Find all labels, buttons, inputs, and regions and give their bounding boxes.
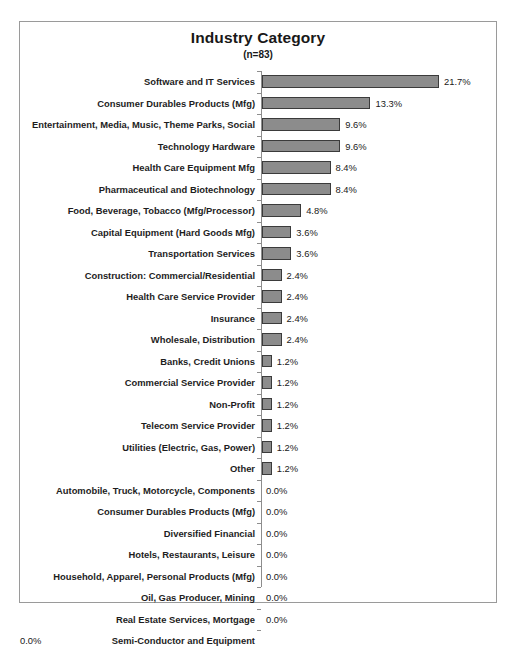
axis-tick (257, 501, 261, 502)
category-label: Utilities (Electric, Gas, Power) (122, 437, 255, 459)
axis-tick (257, 523, 261, 524)
bar-value-label: 2.4% (287, 308, 308, 330)
axis-tick (257, 458, 261, 459)
axis-tick (257, 544, 261, 545)
category-label: Food, Beverage, Tobacco (Mfg/Processor) (68, 200, 255, 222)
bar-value-label: 0.0% (266, 609, 287, 631)
axis-tick (257, 136, 261, 137)
bar-value-label: 8.4% (336, 179, 357, 201)
bar-value-label: 0.0% (20, 630, 41, 650)
category-label: Wholesale, Distribution (151, 329, 255, 351)
category-label: Real Estate Services, Mortgage (116, 609, 255, 631)
bar-value-label: 0.0% (266, 523, 287, 545)
bar-value-label: 2.4% (287, 265, 308, 287)
axis-tick (257, 329, 261, 330)
bar-value-label: 1.2% (277, 415, 298, 437)
axis-tick (257, 587, 261, 588)
chart-frame: Industry Category (n=83) Software and IT… (19, 21, 497, 603)
axis-tick (257, 566, 261, 567)
bar-value-label: 4.8% (306, 200, 327, 222)
bar-value-label: 0.0% (266, 587, 287, 609)
bar-row: Food, Beverage, Tobacco (Mfg/Processor)4… (20, 200, 498, 222)
bar (262, 462, 272, 475)
bar-row: Technology Hardware9.6% (20, 136, 498, 158)
bar (262, 355, 272, 368)
axis-tick (257, 630, 261, 631)
category-label: Health Care Service Provider (126, 286, 255, 308)
category-label: Pharmaceutical and Biotechnology (99, 179, 255, 201)
bar (262, 97, 370, 110)
category-label: Hotels, Restaurants, Leisure (128, 544, 255, 566)
bar-value-label: 9.6% (345, 136, 366, 158)
category-label: Entertainment, Media, Music, Theme Parks… (32, 114, 255, 136)
category-label: Commercial Service Provider (125, 372, 255, 394)
bar-row: Wholesale, Distribution2.4% (20, 329, 498, 351)
category-label: Other (230, 458, 255, 480)
axis-tick (257, 93, 261, 94)
bar (262, 75, 439, 88)
bar-value-label: 3.6% (296, 243, 317, 265)
axis-tick (257, 394, 261, 395)
axis-tick (257, 286, 261, 287)
bar-row: Non-Profit1.2% (20, 394, 498, 416)
bar-row: Utilities (Electric, Gas, Power)1.2% (20, 437, 498, 459)
bar-row: Consumer Durables Products (Mfg)0.0% (20, 501, 498, 523)
axis-tick (257, 609, 261, 610)
category-label: Consumer Durables Products (Mfg) (97, 501, 255, 523)
bar-value-label: 2.4% (287, 286, 308, 308)
bar-row: Hotels, Restaurants, Leisure0.0% (20, 544, 498, 566)
bar-value-label: 1.2% (277, 351, 298, 373)
category-label: Diversified Financial (164, 523, 255, 545)
axis-tick (257, 200, 261, 201)
bar-row: Household, Apparel, Personal Products (M… (20, 566, 498, 588)
bar-value-label: 3.6% (296, 222, 317, 244)
category-label: Construction: Commercial/Residential (85, 265, 255, 287)
axis-tick (257, 415, 261, 416)
category-label: Capital Equipment (Hard Goods Mfg) (91, 222, 255, 244)
axis-tick (257, 71, 261, 72)
axis-tick (257, 308, 261, 309)
bar-row: Other1.2% (20, 458, 498, 480)
bar-row: Pharmaceutical and Biotechnology8.4% (20, 179, 498, 201)
bar (262, 376, 272, 389)
axis-tick (257, 437, 261, 438)
axis-tick (257, 480, 261, 481)
category-label: Technology Hardware (158, 136, 255, 158)
category-label: Software and IT Services (144, 71, 255, 93)
axis-tick (257, 265, 261, 266)
bar (262, 441, 272, 454)
axis-tick (257, 372, 261, 373)
bar (262, 204, 301, 217)
axis-tick (257, 243, 261, 244)
bar-row: Semi-Conductor and Equipment0.0% (20, 630, 498, 650)
bar (262, 333, 282, 346)
category-label: Household, Apparel, Personal Products (M… (53, 566, 255, 588)
bar (262, 140, 340, 153)
chart-subtitle: (n=83) (20, 49, 496, 60)
bar-row: Telecom Service Provider1.2% (20, 415, 498, 437)
category-label: Telecom Service Provider (141, 415, 255, 437)
bar-row: Oil, Gas Producer, Mining0.0% (20, 587, 498, 609)
chart-title: Industry Category (20, 29, 496, 47)
axis-tick (257, 157, 261, 158)
category-label: Non-Profit (209, 394, 255, 416)
bar-value-label: 1.2% (277, 394, 298, 416)
category-label: Semi-Conductor and Equipment (112, 630, 255, 650)
bar (262, 161, 331, 174)
bar-row: Automobile, Truck, Motorcycle, Component… (20, 480, 498, 502)
bar-value-label: 13.3% (375, 93, 402, 115)
axis-tick (257, 222, 261, 223)
bar-value-label: 0.0% (266, 480, 287, 502)
bar-row: Capital Equipment (Hard Goods Mfg)3.6% (20, 222, 498, 244)
bar-row: Insurance2.4% (20, 308, 498, 330)
bar-value-label: 1.2% (277, 372, 298, 394)
bar-row: Health Care Equipment Mfg8.4% (20, 157, 498, 179)
axis-tick (257, 179, 261, 180)
bar-value-label: 8.4% (336, 157, 357, 179)
category-label: Consumer Durables Products (Mfg) (97, 93, 255, 115)
category-label: Automobile, Truck, Motorcycle, Component… (56, 480, 255, 502)
axis-tick (257, 351, 261, 352)
bar (262, 183, 331, 196)
bar-value-label: 21.7% (444, 71, 471, 93)
category-label: Health Care Equipment Mfg (133, 157, 255, 179)
